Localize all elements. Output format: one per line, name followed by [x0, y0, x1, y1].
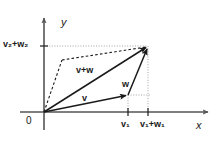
vector-addition-figure: y x 0 v₂+w₂ v₁ v₁+w₁ v+w w v	[0, 0, 218, 143]
x-tick-label-sum: v₁+w₁	[140, 120, 165, 129]
dashed-w-from-origin	[44, 60, 62, 112]
vector-diagram-canvas	[0, 0, 218, 143]
vector-label-v: v	[82, 94, 87, 103]
x-axis-label: x	[196, 120, 202, 131]
origin-label: 0	[26, 116, 32, 126]
dashed-v-translated	[62, 47, 146, 60]
y-tick-label-sum: v₂+w₂	[3, 40, 28, 49]
solid-vectors-group	[44, 48, 147, 113]
x-tick-label-v1: v₁	[121, 120, 130, 129]
vector-label-sum: v+w	[76, 66, 93, 75]
vector-w-arrow	[128, 49, 147, 95]
axes-group	[20, 18, 208, 130]
vector-label-w: w	[122, 80, 129, 89]
y-axis-label: y	[61, 17, 67, 28]
